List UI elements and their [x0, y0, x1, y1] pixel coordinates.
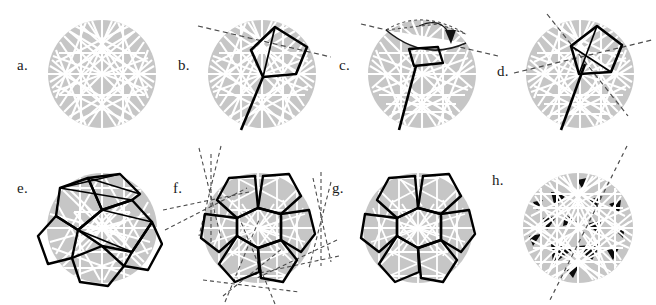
- panel-b-graphic: [163, 0, 338, 152]
- panel-label-g: g.: [332, 180, 344, 197]
- panel-f-graphic: [163, 152, 338, 305]
- panel-c: c.: [326, 0, 489, 152]
- panel-b: b.: [163, 0, 326, 152]
- panel-c-graphic: [326, 0, 506, 152]
- chord-set-h: [523, 173, 633, 283]
- panel-h: h.: [489, 152, 651, 305]
- panel-label-b: b.: [178, 57, 190, 74]
- panel-e: e.: [0, 152, 163, 305]
- panel-label-h: h.: [492, 172, 504, 189]
- panel-d-graphic: [489, 0, 656, 152]
- chord-set-e: [47, 173, 157, 283]
- panel-g-graphic: [326, 152, 496, 305]
- panel-g: g.: [326, 152, 489, 305]
- panel-a: a.: [0, 0, 163, 152]
- panel-label-c: c.: [339, 57, 350, 74]
- chord-set-a: [48, 20, 156, 128]
- panel-label-d: d.: [497, 63, 509, 80]
- panel-label-e: e.: [17, 180, 28, 197]
- panel-label-a: a.: [17, 57, 28, 74]
- panel-h-graphic: [489, 152, 656, 305]
- panel-f: f.: [163, 152, 326, 305]
- panel-a-graphic: [0, 0, 163, 152]
- panel-e-graphic: [0, 152, 163, 305]
- panel-d: d.: [489, 0, 651, 152]
- panel-label-f: f.: [173, 180, 182, 197]
